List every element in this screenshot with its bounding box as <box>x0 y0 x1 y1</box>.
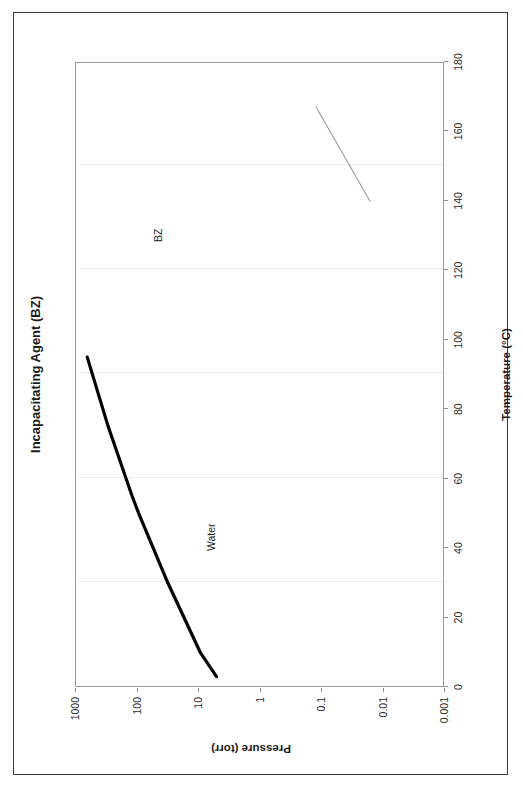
y-tickmark <box>260 688 261 692</box>
y-tickmark <box>75 688 76 692</box>
x-tickmark <box>444 478 448 479</box>
x-axis-title: Temperature (°C) <box>500 62 512 687</box>
chart-rotation-wrapper: Incapacitating Agent (BZ) Water BZ 0 <box>0 0 523 787</box>
series-line-bz <box>316 107 370 201</box>
y-tickmark <box>444 688 445 692</box>
y-tickmark <box>383 688 384 692</box>
x-tickmark <box>444 130 448 131</box>
series-lines <box>75 62 444 687</box>
x-tickmark <box>444 200 448 201</box>
y-tick-label: 100 <box>131 697 143 737</box>
series-label-water: Water <box>205 523 217 551</box>
y-tick-label: 1 <box>254 697 266 737</box>
x-tickmark <box>444 339 448 340</box>
x-tick-label: 20 <box>452 612 464 624</box>
x-tickmark <box>444 686 448 687</box>
y-axis-title: Pressure (torr) <box>151 743 351 755</box>
chart-canvas: Incapacitating Agent (BZ) Water BZ 0 <box>0 0 523 787</box>
y-tickmark <box>137 688 138 692</box>
y-tick-label: 0.01 <box>377 697 389 737</box>
x-tickmark <box>444 547 448 548</box>
x-tickmark <box>444 408 448 409</box>
x-tick-label: 180 <box>452 53 464 71</box>
x-tick-label: 100 <box>452 331 464 349</box>
x-tick-label: 160 <box>452 123 464 141</box>
y-tick-label: 1000 <box>69 697 81 737</box>
x-tick-label: 0 <box>452 684 464 690</box>
x-tick-label: 60 <box>452 473 464 485</box>
x-tickmark <box>444 617 448 618</box>
x-tick-label: 80 <box>452 403 464 415</box>
x-tick-label: 140 <box>452 192 464 210</box>
y-tick-label: 10 <box>192 697 204 737</box>
y-tick-label: 0.1 <box>315 697 327 737</box>
x-tickmark <box>444 61 448 62</box>
y-tickmark <box>321 688 322 692</box>
y-tickmark <box>198 688 199 692</box>
x-tick-label: 120 <box>452 262 464 280</box>
series-line-water <box>87 357 216 676</box>
series-label-bz: BZ <box>152 229 164 242</box>
y-tick-label: 0.001 <box>438 697 450 737</box>
x-tick-label: 40 <box>452 542 464 554</box>
chart-title: Incapacitating Agent (BZ) <box>28 62 43 687</box>
x-tickmark <box>444 269 448 270</box>
